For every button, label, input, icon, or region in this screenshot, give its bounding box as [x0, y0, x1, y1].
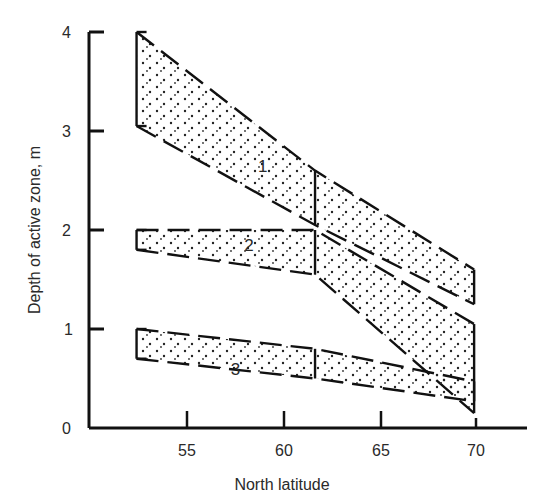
- depth-bands: [137, 32, 475, 413]
- y-tick-0: 0: [62, 420, 71, 437]
- y-tick-4: 4: [62, 24, 71, 41]
- band-label-3: 3: [231, 360, 240, 379]
- y-tick-2: 2: [62, 222, 71, 239]
- x-tick-65: 65: [372, 442, 390, 459]
- x-tick-labels: 55 60 65 70: [178, 442, 485, 459]
- x-tick-55: 55: [178, 442, 196, 459]
- y-axis: [89, 32, 104, 428]
- band-label-2: 2: [244, 236, 253, 255]
- x-tick-60: 60: [275, 442, 293, 459]
- x-tick-70: 70: [467, 442, 485, 459]
- x-axis: [89, 411, 527, 428]
- band-label-1: 1: [258, 157, 267, 176]
- x-axis-title: North latitude: [234, 476, 329, 493]
- y-tick-labels: 4 3 2 1 0: [62, 24, 73, 437]
- y-axis-title: Depth of active zone, m: [26, 146, 43, 314]
- y-tick-3: 3: [62, 123, 71, 140]
- y-tick-1: 1: [64, 321, 73, 338]
- permafrost-active-zone-chart: 4 3 2 1 0 55 60 65 70 North latitude Dep…: [0, 0, 548, 502]
